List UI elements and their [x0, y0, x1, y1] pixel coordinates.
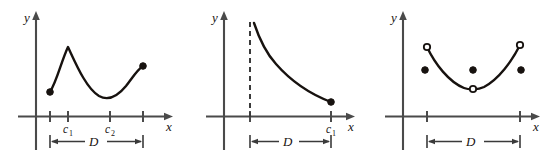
panel-right: y x	[385, 10, 540, 150]
right-open-point-left	[424, 44, 430, 50]
middle-interval-label: D	[282, 134, 293, 149]
left-tick-label-c2: c 2	[105, 123, 115, 138]
right-y-axis	[399, 11, 407, 150]
left-interval-bracket-D: D	[50, 134, 143, 149]
left-c1-subscript: 1	[69, 129, 73, 138]
left-tick-label-c1: c 1	[63, 123, 73, 138]
left-c2-subscript: 2	[111, 129, 115, 138]
middle-y-axis-arrowhead	[220, 11, 228, 20]
left-function-curve	[50, 47, 143, 98]
right-y-axis-label: y	[389, 10, 397, 25]
left-endpoint-dot-end	[140, 63, 147, 70]
middle-function-curve	[254, 23, 331, 102]
left-x-axis	[18, 113, 173, 121]
right-filled-point-right	[518, 67, 525, 74]
right-filled-point-middle	[470, 67, 477, 74]
middle-x-axis	[206, 113, 355, 121]
middle-c1-subscript: 1	[332, 129, 336, 138]
left-interval-label: D	[88, 134, 99, 149]
right-filled-point-left	[422, 67, 429, 74]
middle-y-axis	[220, 11, 228, 150]
middle-endpoint-dot	[328, 99, 335, 106]
right-open-point-right	[517, 42, 523, 48]
panel-middle: y x c 1	[206, 10, 355, 150]
panel-left: y x c 1 c 2	[18, 10, 173, 150]
left-c2-base: c	[105, 123, 110, 135]
figure-container: y x c 1 c 2	[0, 0, 559, 164]
right-interval-bracket-D: D	[427, 134, 520, 149]
right-x-axis-label: x	[532, 119, 539, 134]
right-open-point-bottom	[470, 86, 476, 92]
right-x-axis	[385, 113, 540, 121]
middle-x-axis-label: x	[347, 119, 354, 134]
left-c1-base: c	[63, 123, 68, 135]
right-y-axis-arrowhead	[399, 11, 407, 20]
right-interval-label: D	[465, 134, 476, 149]
three-panel-extreme-value-figure: y x c 1 c 2	[0, 0, 559, 164]
middle-interval-bracket-D: D	[250, 134, 331, 149]
left-x-axis-label: x	[165, 119, 172, 134]
left-endpoint-dot-start	[47, 89, 54, 96]
left-y-axis	[32, 11, 40, 150]
middle-y-axis-label: y	[210, 10, 218, 25]
left-y-axis-label: y	[22, 10, 30, 25]
left-y-axis-arrowhead	[32, 11, 40, 20]
middle-c1-base: c	[326, 123, 331, 135]
